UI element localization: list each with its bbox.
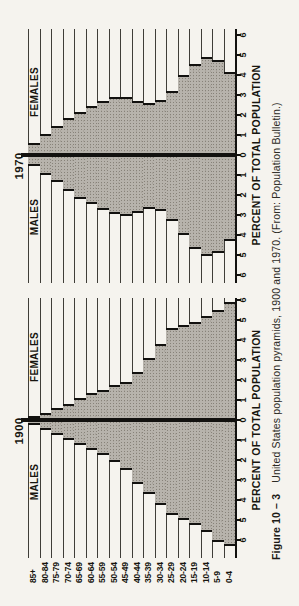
bar-male-1970-35-39 <box>143 155 155 209</box>
bar-male-1900-40-44 <box>132 420 144 484</box>
percent-axis-title: PERCENT OF TOTAL POPULATION <box>250 40 262 270</box>
axis-tick-label: 5 <box>238 313 248 327</box>
bar-male-1970-30-34 <box>155 155 167 211</box>
bar-female-1970-60-64 <box>86 106 98 155</box>
age-axis-label: 15-19 <box>189 551 201 583</box>
bar-male-1900-75-79 <box>51 420 63 435</box>
bar-male-1970-15-19 <box>189 155 201 249</box>
bar-female-1900-40-44 <box>132 372 144 420</box>
percent-axis <box>235 29 237 283</box>
bar-female-1970-0-4 <box>224 72 236 155</box>
age-axis-label: 5-9 <box>212 551 224 583</box>
bar-female-1970-80-84 <box>40 134 52 155</box>
bar-male-1900-65-69 <box>74 420 86 445</box>
bar-male-1900-30-34 <box>155 420 167 505</box>
age-axis-label: 65-69 <box>74 551 86 583</box>
bar-male-1970-10-14 <box>201 155 213 256</box>
bar-male-1970-5-9 <box>212 155 224 253</box>
bar-male-1970-65-69 <box>74 155 86 199</box>
age-axis-label: 70-74 <box>63 551 75 583</box>
females-label: FEMALES <box>29 59 40 125</box>
bar-female-1900-60-64 <box>86 393 98 420</box>
bar-male-1900-50-54 <box>109 420 121 462</box>
bar-female-1970-45-49 <box>120 97 132 155</box>
bar-male-1900-45-49 <box>120 420 132 470</box>
bar-female-1970-15-19 <box>189 64 201 155</box>
females-label: FEMALES <box>29 324 40 390</box>
bar-female-1900-55-59 <box>97 390 109 420</box>
age-axis-label: 45-49 <box>120 551 132 583</box>
bar-female-1970-10-14 <box>201 57 213 155</box>
axis-tick-label: 1 <box>238 433 248 447</box>
age-axis-label: 80-84 <box>40 551 52 583</box>
males-label: MALES <box>29 185 40 249</box>
males-label: MALES <box>29 450 40 514</box>
bar-male-1970-75-79 <box>51 155 63 182</box>
axis-tick-label: 6 <box>238 28 248 42</box>
axis-tick-label: 2 <box>238 108 248 122</box>
age-axis-label: 60-64 <box>86 551 98 583</box>
figure-caption-text: United States population pyramids, 1900 … <box>270 102 282 483</box>
axis-tick-label: 0 <box>238 148 248 162</box>
age-axis-label: 75-79 <box>51 551 63 583</box>
axis-tick-label: 3 <box>238 208 248 222</box>
scanned-figure-page: Figure 10 – 3United States population py… <box>0 0 299 606</box>
bar-female-1900-65-69 <box>74 398 86 420</box>
axis-tick-label: 4 <box>238 333 248 347</box>
bar-male-1970-55-59 <box>97 155 109 210</box>
center-zero-axis <box>21 153 235 157</box>
percent-axis-title: PERCENT OF TOTAL POPULATION <box>250 305 262 535</box>
bar-male-1970-0-4 <box>224 155 236 241</box>
bar-female-1970-75-79 <box>51 126 63 155</box>
bar-male-1900-70-74 <box>63 420 75 440</box>
bar-male-1900-60-64 <box>86 420 98 450</box>
bar-female-1900-10-14 <box>201 316 213 420</box>
bar-female-1900-20-24 <box>178 325 190 420</box>
axis-tick-label: 4 <box>238 228 248 242</box>
bar-female-1900-50-54 <box>109 385 121 420</box>
bar-female-1970-5-9 <box>212 60 224 155</box>
axis-tick-label: 2 <box>238 453 248 467</box>
axis-tick-label: 2 <box>238 188 248 202</box>
axis-tick-label: 1 <box>238 128 248 142</box>
axis-tick-label: 1 <box>238 168 248 182</box>
bar-male-1970-70-74 <box>63 155 75 191</box>
year-label-1970: 1970 <box>13 144 25 188</box>
bar-female-1970-65-69 <box>74 112 86 155</box>
axis-tick-label: 4 <box>238 493 248 507</box>
axis-tick-label: 6 <box>238 268 248 282</box>
figure-caption: Figure 10 – 3United States population py… <box>270 102 282 560</box>
age-axis-label: 55-59 <box>97 551 109 583</box>
bar-female-1970-40-44 <box>132 101 144 155</box>
year-label-1900: 1900 <box>13 409 25 453</box>
figure-number-label: Figure 10 – 3 <box>270 494 282 560</box>
bar-female-1900-25-29 <box>166 328 178 420</box>
age-axis-label: 50-54 <box>109 551 121 583</box>
bar-male-1970-20-24 <box>178 155 190 235</box>
bar-female-1970-55-59 <box>97 101 109 155</box>
center-zero-axis <box>21 418 235 422</box>
axis-tick-label: 6 <box>238 293 248 307</box>
axis-tick-label: 5 <box>238 48 248 62</box>
bar-male-1970-25-29 <box>166 155 178 221</box>
axis-tick-label: 3 <box>238 88 248 102</box>
age-axis-label: 85+ <box>28 551 40 583</box>
bar-male-1970-80-84 <box>40 155 52 175</box>
axis-tick-label: 4 <box>238 68 248 82</box>
bar-female-1900-30-34 <box>155 344 167 420</box>
bar-female-1900-0-4 <box>224 302 236 420</box>
bar-female-1900-35-39 <box>143 358 155 420</box>
bar-male-1900-20-24 <box>178 420 190 520</box>
bar-male-1900-5-9 <box>212 420 224 542</box>
bar-female-1900-45-49 <box>120 382 132 420</box>
age-axis-label: 40-44 <box>132 551 144 583</box>
bar-female-1970-70-74 <box>63 118 75 155</box>
bar-male-1970-50-54 <box>109 155 121 214</box>
bar-male-1970-45-49 <box>120 155 132 216</box>
bar-male-1970-60-64 <box>86 155 98 204</box>
age-axis-label: 20-24 <box>178 551 190 583</box>
bar-male-1900-10-14 <box>201 420 213 532</box>
bar-female-1970-35-39 <box>143 103 155 155</box>
bar-male-1970-40-44 <box>132 155 144 213</box>
figure-rotated-canvas: Figure 10 – 3United States population py… <box>0 0 299 606</box>
